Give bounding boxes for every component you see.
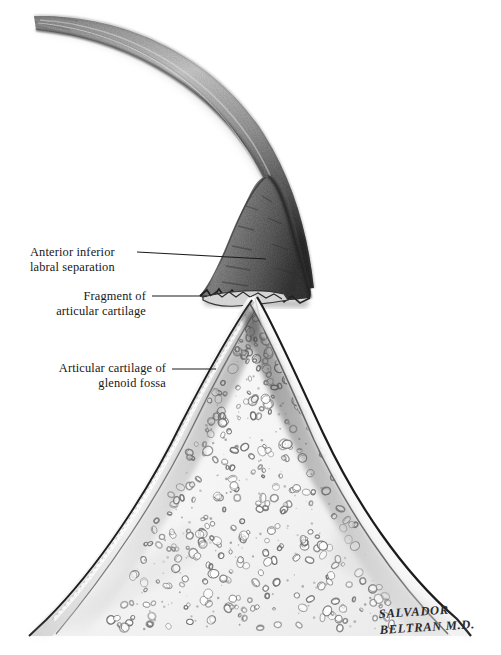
trabecular-speck xyxy=(229,547,231,549)
trabecular-cell xyxy=(315,535,319,539)
trabecular-speck xyxy=(364,603,366,605)
trabecular-cell xyxy=(248,376,252,382)
trabecular-speck xyxy=(252,555,254,557)
trabecular-speck xyxy=(224,438,227,441)
trabecular-speck xyxy=(212,442,215,445)
trabecular-cell xyxy=(259,407,264,411)
trabecular-cell xyxy=(268,410,271,415)
trabecular-cell xyxy=(260,493,266,502)
trabecular-cell xyxy=(253,359,257,362)
label-labral-separation-line2: labral separation xyxy=(30,260,115,274)
trabecular-speck xyxy=(313,616,316,619)
trabecular-speck xyxy=(207,539,209,541)
trabecular-speck xyxy=(210,596,212,598)
trabecular-speck xyxy=(246,478,248,480)
trabecular-speck xyxy=(258,493,260,495)
trabecular-speck xyxy=(238,544,239,545)
trabecular-speck xyxy=(296,534,298,536)
trabecular-cell xyxy=(210,521,215,526)
label-labral-separation-line1: Anterior inferior xyxy=(30,245,116,259)
trabecular-speck xyxy=(190,615,192,617)
trabecular-speck xyxy=(226,492,228,494)
trabecular-speck xyxy=(300,608,301,609)
trabecular-speck xyxy=(286,579,288,581)
trabecular-speck xyxy=(286,527,288,529)
trabecular-cell xyxy=(229,605,234,610)
trabecular-cell xyxy=(223,507,226,512)
trabecular-cell xyxy=(272,608,275,610)
trabecular-speck xyxy=(258,460,260,462)
trabecular-speck xyxy=(369,597,371,599)
trabecular-cell xyxy=(234,494,241,501)
label-glenoid-cartilage-line1: Articular cartilage of xyxy=(59,361,167,375)
trabecular-speck xyxy=(228,580,230,582)
trabecular-cell xyxy=(265,500,270,506)
trabecular-speck xyxy=(232,448,233,449)
trabecular-speck xyxy=(353,620,356,623)
trabecular-cell xyxy=(220,575,228,583)
trabecular-cell xyxy=(237,556,244,563)
trabecular-cell xyxy=(262,468,266,473)
trabecular-speck xyxy=(325,583,328,586)
trabecular-speck xyxy=(235,395,236,396)
trabecular-speck xyxy=(196,605,199,608)
trabecular-speck xyxy=(186,596,187,597)
trabecular-speck xyxy=(219,492,220,493)
trabecular-speck xyxy=(194,620,196,622)
trabecular-speck xyxy=(163,606,166,609)
trabecular-speck xyxy=(370,613,372,615)
trabecular-speck xyxy=(212,610,214,612)
trabecular-cell xyxy=(352,597,356,602)
annotation-labels: Anterior inferiorlabral separationFragme… xyxy=(30,245,167,390)
trabecular-speck xyxy=(294,552,296,554)
trabecular-speck xyxy=(275,431,277,433)
trabecular-speck xyxy=(265,584,267,586)
trabecular-speck xyxy=(249,437,251,439)
trabecular-speck xyxy=(284,504,286,506)
trabecular-speck xyxy=(153,619,156,622)
trabecular-speck xyxy=(241,557,242,558)
trabecular-speck xyxy=(199,489,202,492)
label-cartilage-fragment-line2: articular cartilage xyxy=(56,304,146,318)
trabecular-speck xyxy=(287,525,289,527)
trabecular-speck xyxy=(149,610,151,612)
trabecular-speck xyxy=(235,556,237,558)
trabecular-speck xyxy=(221,585,222,586)
trabecular-speck xyxy=(240,520,243,523)
trabecular-speck xyxy=(247,417,249,419)
trabecular-speck xyxy=(259,533,262,536)
trabecular-speck xyxy=(230,542,232,544)
trabecular-cell xyxy=(302,489,310,495)
trabecular-speck xyxy=(229,603,230,604)
trabecular-speck xyxy=(374,627,376,629)
trabecular-cell xyxy=(241,615,247,622)
trabecular-speck xyxy=(260,459,262,461)
trabecular-cell xyxy=(265,593,270,599)
trabecular-speck xyxy=(267,407,269,409)
trabecular-cell xyxy=(372,615,377,621)
trabecular-speck xyxy=(283,485,286,488)
trabecular-speck xyxy=(302,585,305,588)
trabecular-cell xyxy=(282,440,293,449)
trabecular-speck xyxy=(253,375,255,377)
trabecular-speck xyxy=(241,547,243,549)
trabecular-speck xyxy=(294,574,295,575)
trabecular-speck xyxy=(281,471,282,472)
trabecular-speck xyxy=(349,625,352,628)
trabecular-speck xyxy=(239,624,241,626)
trabecular-speck xyxy=(223,454,224,455)
trabecular-speck xyxy=(228,431,229,432)
trabecular-speck xyxy=(181,517,183,519)
trabecular-speck xyxy=(315,587,317,589)
label-glenoid-cartilage-line2: glenoid fossa xyxy=(98,376,166,390)
trabecular-speck xyxy=(215,550,217,552)
trabecular-speck xyxy=(243,540,245,542)
glenoid-structure xyxy=(28,296,472,636)
trabecular-cell xyxy=(335,615,343,623)
trabecular-speck xyxy=(256,537,257,538)
trabecular-speck xyxy=(191,507,193,509)
trabecular-speck xyxy=(143,628,145,630)
trabecular-speck xyxy=(251,402,253,404)
trabecular-cell xyxy=(250,412,256,420)
trabecular-speck xyxy=(294,495,296,497)
